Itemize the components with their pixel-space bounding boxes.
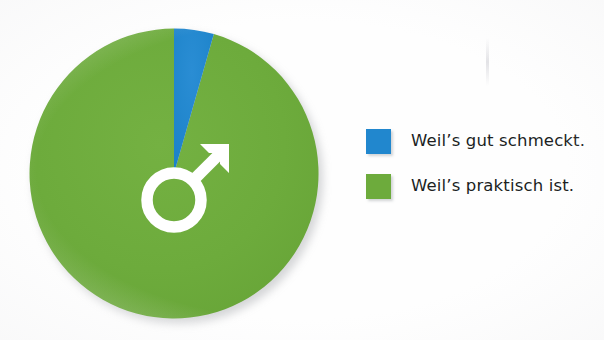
legend: Weil’s gut schmeckt. Weil’s praktisch is… xyxy=(366,128,596,199)
legend-item-schmeckt[interactable]: Weil’s gut schmeckt. xyxy=(366,128,596,154)
pie-chart xyxy=(29,28,319,319)
legend-swatch-green xyxy=(366,174,391,199)
pie-chart-svg xyxy=(29,28,319,319)
scan-artifact xyxy=(486,38,489,86)
legend-swatch-blue xyxy=(366,129,391,154)
pie-chart-figure: Weil’s gut schmeckt. Weil’s praktisch is… xyxy=(0,0,604,340)
legend-item-praktisch[interactable]: Weil’s praktisch ist. xyxy=(366,173,596,199)
legend-label-praktisch: Weil’s praktisch ist. xyxy=(411,178,574,195)
legend-label-schmeckt: Weil’s gut schmeckt. xyxy=(411,133,585,150)
